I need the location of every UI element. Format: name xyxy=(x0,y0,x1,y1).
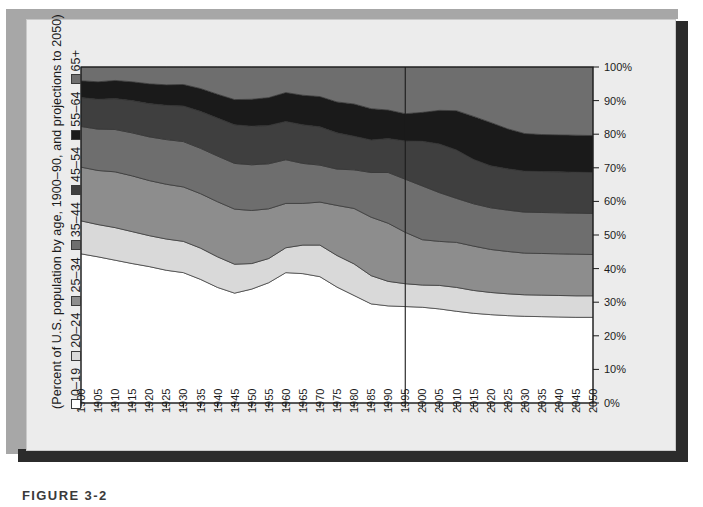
y-tick-label: 80% xyxy=(604,128,626,140)
legend-entry-20-24: 20–24 xyxy=(69,313,83,361)
x-tick-label: 1940 xyxy=(212,389,224,413)
x-tick-label: 1980 xyxy=(348,389,360,413)
x-tick-label: 2010 xyxy=(451,389,463,413)
y-tick-label: 30% xyxy=(604,296,626,308)
chart-legend: 0–1920–2425–3435–4445–5455–6465+ xyxy=(69,50,83,409)
area-bands xyxy=(81,67,593,403)
chart-area: 1900190519101915192019251930193519401945… xyxy=(26,19,676,451)
x-tick-label: 1910 xyxy=(109,389,121,413)
x-tick-label: 1990 xyxy=(382,389,394,413)
x-tick-label: 1935 xyxy=(195,389,207,413)
x-tick-label: 1955 xyxy=(263,389,275,413)
y-tick-label: 10% xyxy=(604,363,626,375)
y-tick-label: 100% xyxy=(604,61,632,73)
x-tick-label: 1920 xyxy=(143,389,155,413)
x-tick-label: 1995 xyxy=(399,389,411,413)
legend-label: 0–19 xyxy=(69,368,83,396)
legend-entry-35-44: 35–44 xyxy=(69,202,83,250)
figure-number-caption: FIGURE 3-2 xyxy=(22,488,108,503)
x-tick-label: 2035 xyxy=(536,389,548,413)
x-tick-label: 1905 xyxy=(92,389,104,413)
legend-entry-25-34: 25–34 xyxy=(69,257,83,305)
y-tick-label: 0% xyxy=(604,397,620,409)
frame-accent-left xyxy=(6,9,26,454)
legend-swatch-icon xyxy=(71,130,81,140)
legend-label: 65+ xyxy=(69,50,83,72)
x-tick-label: 2000 xyxy=(416,389,428,413)
x-tick-label: 2025 xyxy=(502,389,514,413)
legend-swatch-icon xyxy=(71,74,81,84)
x-tick-label: 1945 xyxy=(229,389,241,413)
x-axis-labels: 1900190519101915192019251930193519401945… xyxy=(75,389,599,413)
stacked-area-chart: 1900190519101915192019251930193519401945… xyxy=(26,19,676,451)
legend-label: 35–44 xyxy=(69,202,83,237)
legend-entry-55-64: 55–64 xyxy=(69,91,83,139)
y-tick-label: 20% xyxy=(604,330,626,342)
x-tick-label: 1985 xyxy=(365,389,377,413)
y-tick-label: 60% xyxy=(604,195,626,207)
legend-label: 25–34 xyxy=(69,257,83,292)
figure-frame: 1900190519101915192019251930193519401945… xyxy=(6,9,688,464)
y-tick-label: 50% xyxy=(604,229,626,241)
frame-accent-top xyxy=(6,9,678,19)
y-axis-labels: 0%10%20%30%40%50%60%70%80%90%100% xyxy=(604,61,632,409)
legend-swatch-icon xyxy=(71,351,81,361)
legend-label: 55–64 xyxy=(69,91,83,126)
y-tick-label: 40% xyxy=(604,263,626,275)
y-tick-label: 90% xyxy=(604,95,626,107)
x-tick-label: 1970 xyxy=(314,389,326,413)
x-tick-label: 2050 xyxy=(587,389,599,413)
x-tick-label: 2020 xyxy=(485,389,497,413)
legend-swatch-icon xyxy=(71,240,81,250)
legend-swatch-icon xyxy=(71,399,81,409)
x-tick-label: 1960 xyxy=(280,389,292,413)
x-tick-label: 1975 xyxy=(331,389,343,413)
axis-caption: (Percent of U.S. population by age, 1900… xyxy=(50,14,64,409)
legend-swatch-icon xyxy=(71,296,81,306)
legend-label: 45–54 xyxy=(69,147,83,182)
y-tick-label: 70% xyxy=(604,162,626,174)
y-axis-ticks xyxy=(593,67,599,403)
x-tick-label: 2030 xyxy=(519,389,531,413)
x-tick-label: 2015 xyxy=(468,389,480,413)
frame-shadow-right xyxy=(675,21,688,462)
legend-entry-45-54: 45–54 xyxy=(69,147,83,195)
x-tick-label: 1950 xyxy=(246,389,258,413)
x-tick-label: 1915 xyxy=(126,389,138,413)
legend-entry-65+: 65+ xyxy=(69,50,83,85)
legend-label: 20–24 xyxy=(69,313,83,348)
x-tick-label: 1965 xyxy=(297,389,309,413)
legend-entry-0-19: 0–19 xyxy=(69,368,83,409)
x-tick-label: 2040 xyxy=(553,389,565,413)
legend-swatch-icon xyxy=(71,185,81,195)
x-tick-label: 2045 xyxy=(570,389,582,413)
x-tick-label: 1925 xyxy=(160,389,172,413)
x-tick-label: 1930 xyxy=(177,389,189,413)
x-tick-label: 2005 xyxy=(433,389,445,413)
